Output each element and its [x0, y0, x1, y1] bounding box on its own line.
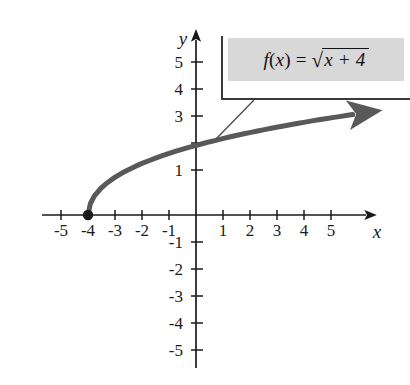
y-tick-label-1: 1: [175, 161, 184, 180]
formula-variable: x: [276, 49, 285, 70]
radical-sign-icon: √: [312, 48, 324, 72]
x-tick-label--2: -2: [135, 221, 149, 240]
x-tick-labels: -5 -4 -3 -2 -1 1 2 3 4 5: [54, 221, 335, 240]
y-tick-label--1: -1: [169, 233, 183, 252]
x-axis-label: x: [372, 221, 382, 242]
formula-equals: =: [296, 49, 307, 70]
y-tick-label-3: 3: [175, 107, 184, 126]
x-tick-label-3: 3: [273, 221, 282, 240]
y-tick-label--3: -3: [169, 287, 183, 306]
formula-paren-close: ): [284, 49, 291, 70]
function-curve: [88, 115, 353, 216]
x-tick-label--5: -5: [54, 221, 68, 240]
x-tick-label-2: 2: [246, 221, 255, 240]
y-tick-label--2: -2: [169, 260, 183, 279]
formula-radicand: x + 4: [322, 48, 368, 70]
x-tick-label--4: -4: [81, 221, 96, 240]
y-tick-label--5: -5: [169, 341, 183, 360]
callout-bottom-border: [221, 98, 410, 100]
curve-endpoint-marker: [83, 210, 93, 220]
y-tick-label-5: 5: [175, 53, 184, 72]
x-tick-label-1: 1: [219, 221, 228, 240]
function-formula-callout: f(x) = √x + 4: [228, 38, 404, 81]
x-tick-label--3: -3: [108, 221, 122, 240]
y-axis-ticks: [191, 62, 203, 350]
y-tick-labels: 5 4 3 1 -1 -2 -3 -4 -5: [169, 53, 184, 360]
square-root-function-figure: -5 -4 -3 -2 -1 1 2 3 4 5 5 4 3 1 -1 -2 -…: [0, 0, 410, 385]
callout-left-border: [221, 36, 223, 100]
function-formula: f(x) = √x + 4: [263, 47, 368, 72]
x-tick-label-5: 5: [327, 221, 336, 240]
y-tick-label--4: -4: [169, 314, 184, 333]
y-tick-label-4: 4: [175, 80, 184, 99]
x-tick-label-4: 4: [300, 221, 309, 240]
y-axis-label: y: [177, 28, 188, 49]
